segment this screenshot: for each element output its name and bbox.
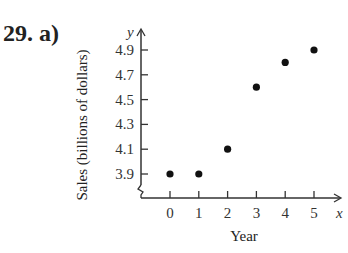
x-tick-label: 4 xyxy=(281,205,289,221)
data-point xyxy=(195,170,202,177)
data-point xyxy=(166,170,173,177)
data-point xyxy=(310,46,317,53)
y-tick-label: 4.1 xyxy=(115,141,134,157)
x-tick-label: 1 xyxy=(195,205,203,221)
x-tick-label: 5 xyxy=(310,205,318,221)
x-tick-label: 0 xyxy=(166,205,174,221)
y-tick-label: 3.9 xyxy=(115,166,134,182)
y-tick-label: 4.9 xyxy=(115,42,134,58)
x-axis-letter: x xyxy=(335,205,343,221)
x-tick-label: 3 xyxy=(253,205,261,221)
y-tick-label: 4.3 xyxy=(115,116,134,132)
y-axis-letter: y xyxy=(125,24,134,40)
axis-break-icon xyxy=(138,185,143,198)
data-point xyxy=(282,59,289,66)
data-point xyxy=(224,146,231,153)
y-tick-label: 4.5 xyxy=(115,92,134,108)
data-point xyxy=(253,84,260,91)
scatter-plot: yx3.94.14.34.54.74.9012345 xyxy=(0,0,348,253)
y-tick-label: 4.7 xyxy=(115,67,134,83)
x-tick-label: 2 xyxy=(224,205,232,221)
